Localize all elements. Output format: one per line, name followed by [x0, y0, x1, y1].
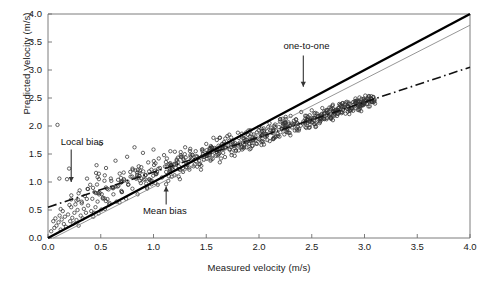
x-tick-label: 1.0 — [137, 241, 171, 252]
data-point — [59, 207, 62, 210]
data-point — [188, 149, 191, 152]
data-point — [95, 164, 98, 167]
data-point — [114, 159, 117, 162]
scatter-plot-figure: Predicted Velocity (m/s) Measured veloci… — [0, 0, 495, 284]
data-point — [76, 208, 79, 211]
data-point — [95, 183, 98, 186]
data-point — [152, 148, 155, 151]
data-point — [82, 207, 85, 210]
y-tick-label: 2.0 — [12, 120, 42, 131]
data-point — [112, 193, 115, 196]
data-point — [169, 150, 172, 153]
y-tick-label: 0.0 — [12, 232, 42, 243]
y-tick-label: 2.5 — [12, 92, 42, 103]
data-point — [74, 203, 77, 206]
arrow-head-local-bias — [69, 177, 74, 182]
data-point — [57, 221, 60, 224]
data-point — [85, 197, 88, 200]
data-point — [91, 186, 94, 189]
data-point — [58, 177, 61, 180]
data-point — [218, 161, 221, 164]
y-tick-label: 1.5 — [12, 148, 42, 159]
data-point — [70, 194, 73, 197]
data-point — [164, 160, 167, 163]
x-tick-label: 1.5 — [189, 241, 223, 252]
data-point — [85, 177, 88, 180]
data-point — [71, 216, 74, 219]
data-point — [310, 109, 313, 112]
data-point — [212, 136, 215, 139]
data-point — [96, 200, 99, 203]
x-tick-label: 3.5 — [400, 241, 434, 252]
x-tick-label: 3.0 — [348, 241, 382, 252]
y-tick-label: 3.5 — [12, 36, 42, 47]
data-point — [279, 131, 282, 134]
data-point — [60, 218, 63, 221]
data-point — [61, 209, 64, 212]
data-point — [219, 157, 222, 160]
annotation-local-bias: Local bias — [61, 136, 104, 147]
data-point — [223, 155, 226, 158]
data-point — [56, 123, 59, 126]
data-point — [131, 187, 134, 190]
data-point — [118, 172, 121, 175]
data-point — [165, 157, 168, 160]
data-point — [103, 174, 106, 177]
data-point — [125, 155, 128, 158]
x-tick-label: 2.5 — [295, 241, 329, 252]
data-point — [183, 152, 186, 155]
line-one-to-one — [48, 14, 470, 238]
data-point — [157, 157, 160, 160]
data-point — [120, 190, 123, 193]
data-point — [103, 179, 106, 182]
arrow-head-one-to-one — [301, 82, 306, 87]
arrow-head-mean-bias — [164, 186, 169, 191]
data-point — [142, 170, 145, 173]
data-point — [84, 211, 87, 214]
data-point — [54, 217, 57, 220]
data-point — [205, 142, 208, 145]
data-point — [162, 153, 165, 156]
data-point — [89, 183, 92, 186]
x-tick-label: 2.0 — [242, 241, 276, 252]
data-point — [104, 166, 107, 169]
data-point — [63, 215, 66, 218]
data-point — [116, 178, 119, 181]
data-point — [257, 137, 260, 140]
data-point — [86, 204, 89, 207]
x-tick-label: 4.0 — [453, 241, 487, 252]
data-point — [73, 211, 76, 214]
data-point — [68, 220, 71, 223]
x-tick-label: 0.5 — [84, 241, 118, 252]
annotation-mean-bias: Mean bias — [143, 205, 187, 216]
data-point — [122, 171, 125, 174]
data-point — [141, 151, 144, 154]
y-tick-label: 3.0 — [12, 64, 42, 75]
data-point — [183, 146, 186, 149]
data-point — [321, 106, 324, 109]
data-point — [364, 94, 367, 97]
data-point — [66, 213, 69, 216]
y-tick-label: 4.0 — [12, 8, 42, 19]
data-point — [194, 150, 197, 153]
data-point — [65, 178, 68, 181]
data-point — [284, 115, 287, 118]
data-point — [133, 146, 136, 149]
data-point — [55, 224, 58, 227]
data-point — [109, 177, 112, 180]
y-tick-label: 0.5 — [12, 204, 42, 215]
y-tick-label: 1.0 — [12, 176, 42, 187]
data-point — [277, 125, 280, 128]
data-point — [147, 161, 150, 164]
data-point — [49, 230, 52, 233]
x-axis-label: Measured velocity (m/s) — [48, 262, 470, 273]
data-point — [164, 183, 167, 186]
data-point — [224, 137, 227, 140]
data-point — [173, 150, 176, 153]
data-point — [236, 131, 239, 134]
line-mean-bias-line — [53, 25, 470, 238]
data-point — [91, 197, 94, 200]
data-point — [199, 168, 202, 171]
annotation-one-to-one: one-to-one — [283, 40, 329, 51]
data-point — [164, 170, 167, 173]
